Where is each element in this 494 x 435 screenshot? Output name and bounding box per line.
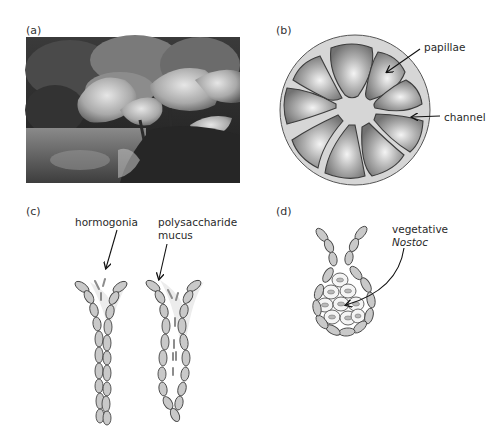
figure-canvas <box>0 0 494 435</box>
hormogonia-filaments <box>73 230 204 425</box>
gunnera-photo <box>25 35 240 183</box>
mucus-arrow <box>159 244 167 279</box>
gland-with-nostoc <box>312 224 404 337</box>
gland-cross-section <box>280 35 440 185</box>
hormogonia-arrow <box>106 230 117 268</box>
